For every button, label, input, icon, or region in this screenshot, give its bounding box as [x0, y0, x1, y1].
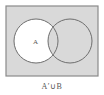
set-a-label: A [33, 38, 38, 46]
venn-diagram: A [0, 0, 104, 95]
diagram-caption: A′∪B [0, 82, 104, 91]
